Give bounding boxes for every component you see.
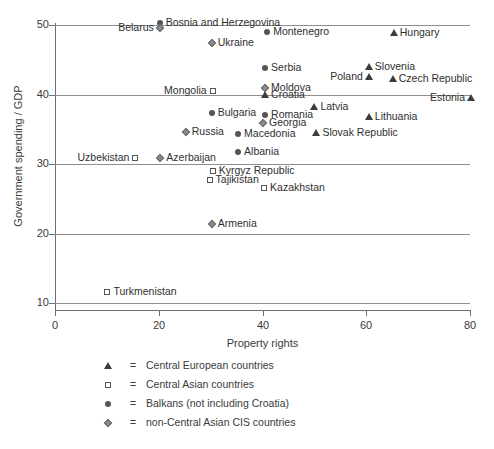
y-axis-title: Government spending / GDP xyxy=(12,56,24,256)
scatter-plot-area: 1020304050 020406080 HungarySloveniaPola… xyxy=(0,0,494,340)
point-label: Macedonia xyxy=(244,128,295,139)
point-label: Czech Republic xyxy=(399,73,473,84)
square-marker-icon xyxy=(105,382,111,388)
diamond-marker-icon xyxy=(181,128,189,136)
legend-item-central-asian-countries[interactable]: =Central Asian countries xyxy=(108,376,448,395)
legend-label: Balkans (not including Croatia) xyxy=(146,397,289,409)
y-tick-label-10: 10 xyxy=(23,297,49,308)
y-tick-40 xyxy=(49,95,55,96)
point-label: Ukraine xyxy=(218,37,254,48)
diamond-marker-icon xyxy=(104,419,112,427)
x-tick-20 xyxy=(159,310,160,316)
diamond-marker-icon xyxy=(259,119,267,127)
point-label: Bosnia and Herzegovina xyxy=(166,17,280,28)
square-marker-icon xyxy=(207,177,213,183)
point-label: Albania xyxy=(244,146,279,157)
point-label: Turkmenistan xyxy=(113,286,176,297)
point-label: Russia xyxy=(192,126,224,137)
point-label: Serbia xyxy=(271,62,301,73)
legend-label: non-Central Asian CIS countries xyxy=(146,416,295,428)
square-marker-icon xyxy=(261,185,267,191)
gridline-y-20 xyxy=(55,234,470,235)
triangle-marker-icon xyxy=(365,73,373,80)
point-label: Uzbekistan xyxy=(77,152,129,163)
circle-marker-icon xyxy=(262,112,268,118)
point-label: Hungary xyxy=(400,27,440,38)
point-label: Slovenia xyxy=(375,61,415,72)
point-label: Belarus xyxy=(118,22,154,33)
legend-equals-sign: = xyxy=(130,416,136,428)
square-marker-icon xyxy=(210,88,216,94)
point-label: Latvia xyxy=(320,101,348,112)
triangle-marker-icon xyxy=(104,362,112,369)
x-tick-0 xyxy=(55,310,56,316)
legend-item-non-central-asian-cis-countries[interactable]: =non-Central Asian CIS countries xyxy=(108,414,448,433)
y-tick-50 xyxy=(49,25,55,26)
triangle-marker-icon xyxy=(467,94,475,101)
y-tick-10 xyxy=(49,303,55,304)
point-label: Moldova xyxy=(271,82,311,93)
point-label: Montenegro xyxy=(273,26,329,37)
triangle-marker-icon xyxy=(365,63,373,70)
diamond-marker-icon xyxy=(156,153,164,161)
triangle-marker-icon xyxy=(390,29,398,36)
point-label: Lithuania xyxy=(375,111,418,122)
circle-marker-icon xyxy=(105,401,111,407)
legend-item-balkans-not-including-croatia-[interactable]: =Balkans (not including Croatia) xyxy=(108,395,448,414)
figure-caption xyxy=(5,437,489,449)
x-tick-label-40: 40 xyxy=(243,319,283,331)
y-axis-line xyxy=(55,23,56,311)
square-marker-icon xyxy=(104,289,110,295)
circle-marker-icon xyxy=(235,131,241,137)
legend-item-central-european-countries[interactable]: =Central European countries xyxy=(108,357,448,376)
y-tick-label-40: 40 xyxy=(23,89,49,100)
triangle-marker-icon xyxy=(389,75,397,82)
point-label: Georgia xyxy=(269,117,306,128)
legend-equals-sign: = xyxy=(130,397,136,409)
y-tick-20 xyxy=(49,234,55,235)
x-tick-80 xyxy=(470,310,471,316)
triangle-marker-icon xyxy=(365,113,373,120)
point-label: Tajikistan xyxy=(216,174,259,185)
y-tick-label-20: 20 xyxy=(23,228,49,239)
triangle-marker-icon xyxy=(312,129,320,136)
circle-marker-icon xyxy=(235,149,241,155)
square-marker-icon xyxy=(132,155,138,161)
triangle-marker-icon xyxy=(261,91,269,98)
legend-label: Central Asian countries xyxy=(146,378,254,390)
y-tick-30 xyxy=(49,164,55,165)
diamond-marker-icon xyxy=(207,220,215,228)
legend: =Central European countries=Central Asia… xyxy=(108,357,448,433)
x-tick-40 xyxy=(263,310,264,316)
circle-marker-icon xyxy=(209,110,215,116)
legend-label: Central European countries xyxy=(146,359,274,371)
chart-figure: 1020304050 020406080 HungarySloveniaPola… xyxy=(0,0,494,449)
circle-marker-icon xyxy=(264,29,270,35)
gridline-y-10 xyxy=(55,303,470,304)
y-tick-label-50: 50 xyxy=(23,19,49,30)
point-label: Kazakhstan xyxy=(270,182,325,193)
point-label: Azerbaijan xyxy=(166,152,216,163)
legend-equals-sign: = xyxy=(130,359,136,371)
x-tick-label-80: 80 xyxy=(450,319,490,331)
circle-marker-icon xyxy=(262,65,268,71)
diamond-marker-icon xyxy=(207,39,215,47)
point-label: Armenia xyxy=(218,218,257,229)
x-tick-label-60: 60 xyxy=(346,319,386,331)
point-label: Bulgaria xyxy=(218,107,257,118)
point-label: Mongolia xyxy=(164,85,207,96)
x-tick-60 xyxy=(366,310,367,316)
x-axis-title: Property rights xyxy=(55,337,470,349)
legend-equals-sign: = xyxy=(130,378,136,390)
point-label: Slovak Republic xyxy=(322,127,397,138)
point-label: Estonia xyxy=(430,92,465,103)
x-tick-label-0: 0 xyxy=(35,319,75,331)
point-label: Poland xyxy=(330,71,363,82)
x-tick-label-20: 20 xyxy=(139,319,179,331)
y-tick-label-30: 30 xyxy=(23,158,49,169)
